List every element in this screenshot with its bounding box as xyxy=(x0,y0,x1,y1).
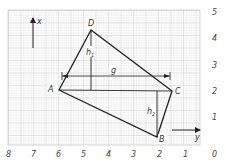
svg-text:2: 2 xyxy=(212,87,217,96)
grid-paper xyxy=(8,10,200,145)
quadrilateral-diagram: x y h1 h2 g D A C B 8 7 6 5 4 3 2 1 0 5 … xyxy=(0,0,226,161)
vertex-C-label: C xyxy=(175,87,181,96)
svg-text:3: 3 xyxy=(212,61,217,70)
svg-text:2: 2 xyxy=(157,150,162,159)
y-axis-label: y xyxy=(194,133,200,142)
vertex-B-label: B xyxy=(159,135,165,144)
svg-text:0: 0 xyxy=(212,150,217,159)
svg-text:5: 5 xyxy=(212,8,217,17)
g-label: g xyxy=(111,66,116,75)
svg-text:1: 1 xyxy=(212,113,217,122)
vertex-A-label: A xyxy=(47,85,53,94)
svg-text:6: 6 xyxy=(56,150,61,159)
x-axis-label: x xyxy=(36,17,42,26)
bottom-axis-ticks: 8 7 6 5 4 3 2 1 0 xyxy=(6,150,217,159)
svg-text:1: 1 xyxy=(183,150,188,159)
svg-text:5: 5 xyxy=(81,150,86,159)
svg-text:7: 7 xyxy=(31,150,37,159)
right-axis-ticks: 5 4 3 2 1 xyxy=(212,8,217,122)
svg-text:4: 4 xyxy=(212,34,217,43)
svg-text:3: 3 xyxy=(131,150,136,159)
vertex-D-label: D xyxy=(88,19,94,28)
svg-text:8: 8 xyxy=(6,150,11,159)
svg-text:4: 4 xyxy=(106,150,111,159)
